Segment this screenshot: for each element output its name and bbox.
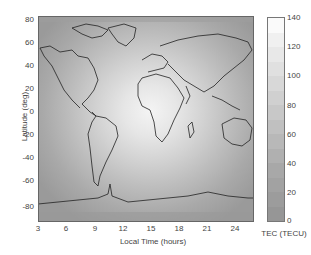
colorbar-tick-label: 40 — [287, 159, 296, 168]
x-tick-label: 3 — [28, 224, 48, 233]
x-tick-label: 9 — [85, 224, 105, 233]
tec-figure: 80 60 40 20 0 -20 -40 -60 -80 3 6 9 12 1… — [0, 0, 311, 255]
colorbar-tick-label: 140 — [287, 13, 300, 22]
x-axis-label: Local Time (hours) — [98, 237, 208, 246]
colorbar-tick-label: 20 — [287, 188, 296, 197]
tec-map-plot — [38, 16, 254, 222]
y-axis-label: Latitude (deg) — [20, 87, 29, 147]
colorbar-tick-label: 100 — [287, 71, 300, 80]
colorbar-tick-label: 80 — [287, 101, 296, 110]
colorbar-tick-label: 60 — [287, 130, 296, 139]
y-tick-label: 60 — [12, 38, 34, 47]
x-tick-label: 21 — [197, 224, 217, 233]
y-tick-label: -60 — [12, 176, 34, 185]
x-tick-label: 15 — [141, 224, 161, 233]
y-tick-label: 80 — [12, 15, 34, 24]
colorbar — [267, 17, 285, 222]
y-tick-label: -80 — [12, 202, 34, 211]
x-tick-label: 12 — [113, 224, 133, 233]
colorbar-tick-label: 0 — [287, 216, 291, 225]
tec-map-svg — [38, 16, 254, 222]
colorbar-label: TEC (TECU) — [256, 229, 311, 238]
colorbar-gradient — [268, 18, 284, 221]
x-tick-label: 18 — [169, 224, 189, 233]
y-tick-label: 40 — [12, 61, 34, 70]
colorbar-tick-label: 120 — [287, 42, 300, 51]
x-tick-label: 6 — [56, 224, 76, 233]
x-tick-label: 24 — [225, 224, 245, 233]
y-tick-label: -40 — [12, 153, 34, 162]
